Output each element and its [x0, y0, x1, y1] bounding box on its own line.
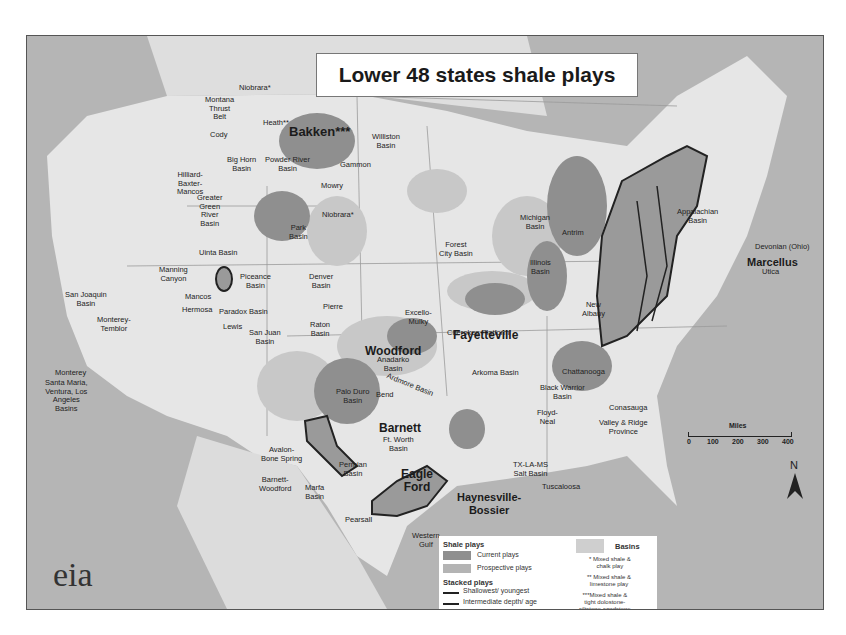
legend-shallow-line: [443, 592, 459, 594]
label-monterey: Monterey: [55, 369, 86, 378]
legend-current-swatch: [443, 551, 471, 560]
label-lewis: Lewis: [223, 323, 242, 332]
legend-prospective: Prospective plays: [477, 564, 532, 571]
label-new-albany: New Albany: [582, 301, 605, 318]
label-niobrara-s: Niobrara*: [322, 211, 354, 220]
legend-basins: Basins: [615, 542, 640, 551]
scale-tick-400: 400: [782, 438, 794, 445]
label-pearsall: Pearsall: [345, 516, 372, 525]
legend-note-3: ***Mixed shale & tight dolostone- siltst…: [579, 592, 631, 610]
scale-tick-0: 0: [687, 438, 691, 445]
scale-tick-300: 300: [757, 438, 769, 445]
label-pierre: Pierre: [323, 303, 343, 312]
legend-stacked-title: Stacked plays: [443, 578, 493, 587]
label-manning: Manning Canyon: [159, 266, 188, 283]
legend-note-1: * Mixed shale & chalk play: [589, 556, 631, 570]
legend-intermediate: Intermediate depth/ age: [463, 598, 537, 605]
label-ft-worth: Ft. Worth Basin: [383, 436, 414, 453]
label-excello: Excello- Mulky: [405, 309, 432, 326]
legend-note-2: ** Mixed shale & limestone play: [587, 574, 631, 588]
label-powder: Powder River Basin: [265, 156, 310, 173]
label-appalachian: Appalachian Basin: [677, 208, 718, 225]
label-denver: Denver Basin: [309, 273, 333, 290]
label-montana: Montana Thrust Belt: [205, 96, 234, 122]
label-barnett-woodford: Barnett- Woodford: [259, 476, 291, 493]
label-uinta: Uinta Basin: [199, 249, 237, 258]
scale-title: Miles: [729, 422, 747, 429]
label-floyd: Floyd- Neal: [537, 409, 558, 426]
label-paradox: Paradox Basin: [219, 308, 268, 317]
label-piceance: Piceance Basin: [240, 273, 271, 290]
label-barnett: Barnett: [379, 421, 421, 435]
label-san-joaquin: San Joaquin Basin: [65, 291, 107, 308]
label-avalon: Avalon- Bone Spring: [261, 446, 302, 463]
label-cody: Cody: [210, 131, 228, 140]
label-devonian: Devonian (Ohio): [755, 243, 810, 252]
label-chattanooga: Chattanooga: [562, 368, 605, 377]
label-bakken: Bakken***: [289, 124, 350, 139]
label-antrim: Antrim: [562, 229, 584, 238]
north-label: N: [790, 459, 798, 471]
label-williston: Williston Basin: [372, 133, 400, 150]
label-anadarko: Anadarko Basin: [377, 356, 409, 373]
map-title: Lower 48 states shale plays: [339, 63, 616, 87]
label-cherokee: Cherokee Platform: [447, 329, 510, 338]
label-greater-green: Greater Green River Basin: [197, 194, 222, 228]
label-conasauga: Conasauga: [609, 404, 647, 413]
label-mowry: Mowry: [321, 182, 343, 191]
legend-basins-swatch: [576, 539, 604, 553]
label-heath: Heath**: [263, 119, 289, 128]
label-eagle-ford: Eagle Ford: [401, 468, 433, 494]
label-bend: Bend: [376, 391, 394, 400]
scale-tick-100: 100: [707, 438, 719, 445]
label-illinois: Illinois Basin: [530, 259, 551, 276]
label-park: Park Basin: [289, 224, 308, 241]
label-palo-duro: Palo Duro Basin: [336, 388, 369, 405]
label-haynesville: Haynesville- Bossier: [457, 491, 521, 517]
label-san-juan: San Juan Basin: [249, 329, 281, 346]
legend-intermediate-line: [443, 603, 459, 605]
label-monterey-temblor: Monterey- Temblor: [97, 316, 131, 333]
north-arrow-icon: [785, 473, 805, 501]
legend-prospective-swatch: [443, 564, 471, 573]
label-niobrara-n: Niobrara*: [239, 84, 271, 93]
scale-line: [688, 432, 792, 437]
label-tuscaloosa: Tuscaloosa: [542, 483, 580, 492]
label-bighorn: Big Horn Basin: [227, 156, 256, 173]
label-mancos: Mancos: [185, 293, 211, 302]
label-raton: Raton Basin: [310, 321, 330, 338]
label-arkoma: Arkoma Basin: [472, 369, 519, 378]
label-western-gulf: Western Gulf: [412, 532, 440, 549]
label-gammon: Gammon: [340, 161, 371, 170]
label-hermosa: Hermosa: [182, 306, 212, 315]
label-tx-la-ms: TX-LA-MS Salt Basin: [513, 461, 548, 478]
legend: Shale plays Current plays Prospective pl…: [439, 536, 657, 610]
eia-logo: eia: [53, 556, 93, 594]
label-permian: Permian Basin: [339, 461, 367, 478]
scale-tick-200: 200: [732, 438, 744, 445]
legend-shallowest: Shallowest/ youngest: [463, 587, 529, 594]
legend-shale-title: Shale plays: [443, 540, 484, 549]
map-title-box: Lower 48 states shale plays: [316, 53, 638, 97]
legend-deepest: Deepest/ oldest: [463, 609, 512, 610]
label-marfa: Marfa Basin: [305, 484, 324, 501]
label-michigan: Michigan Basin: [520, 214, 550, 231]
label-forest-city: Forest City Basin: [439, 241, 473, 258]
label-valley-ridge: Valley & Ridge Province: [599, 419, 648, 436]
label-utica: Utica: [762, 268, 779, 277]
map-frame: Lower 48 states shale plays Bakken*** Ma…: [26, 35, 824, 610]
label-black-warrior: Black Warrior Basin: [540, 384, 585, 401]
label-santa-maria: Santa Maria, Ventura, Los Angeles Basins: [45, 379, 88, 413]
legend-current: Current plays: [477, 551, 519, 558]
